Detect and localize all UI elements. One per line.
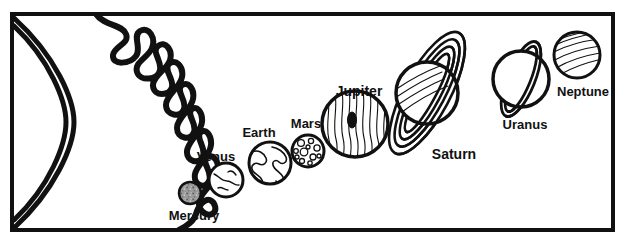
- sun-limb-inner-arc: [14, 26, 66, 220]
- planet-mercury[interactable]: [179, 182, 201, 204]
- planet-uranus[interactable]: [493, 37, 549, 122]
- label-mercury: Mercury: [169, 208, 220, 223]
- solar-system-diagram: Mercury Venus Earth Mars Jupiter Saturn …: [0, 0, 627, 245]
- diagram-canvas: Mercury Venus Earth Mars Jupiter Saturn …: [0, 0, 627, 245]
- mercury-disc: [179, 182, 201, 204]
- label-jupiter: Jupiter: [336, 83, 383, 99]
- label-neptune: Neptune: [557, 84, 609, 99]
- planet-saturn[interactable]: [375, 22, 479, 164]
- planet-neptune[interactable]: [552, 32, 600, 78]
- label-uranus: Uranus: [503, 117, 548, 132]
- venus-disc: [209, 163, 243, 197]
- planet-jupiter[interactable]: [322, 90, 388, 162]
- label-earth: Earth: [242, 125, 275, 140]
- planet-earth[interactable]: [249, 142, 291, 184]
- jupiter-great-red-spot: [348, 112, 357, 128]
- label-venus: Venus: [197, 149, 235, 164]
- label-saturn: Saturn: [432, 146, 476, 162]
- label-mars: Mars: [291, 116, 321, 131]
- planet-mars[interactable]: [292, 135, 324, 167]
- sun-limb: [14, 18, 74, 228]
- planet-venus[interactable]: [209, 163, 243, 197]
